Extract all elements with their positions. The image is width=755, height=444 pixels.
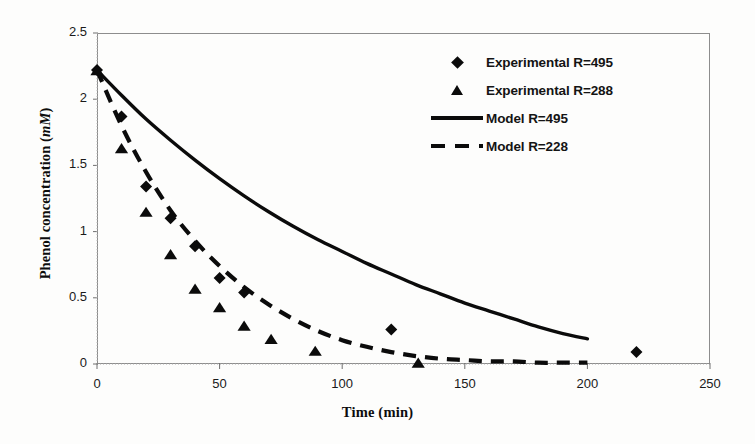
data-point-triangle — [213, 302, 226, 312]
data-point-diamond — [385, 324, 397, 336]
data-point-triangle — [309, 346, 322, 356]
data-point-triangle — [412, 358, 425, 368]
data-point-triangle — [188, 283, 201, 293]
data-point-triangle — [139, 207, 152, 217]
data-point-triangle — [264, 334, 277, 344]
data-point-triangle — [164, 249, 177, 259]
data-point-diamond — [140, 181, 152, 193]
data-point-diamond — [630, 346, 642, 358]
legend-key-solid-line — [428, 116, 486, 120]
data-point-diamond — [214, 272, 226, 284]
chart-page: 00.511.522.5 050100150200250 Time (min) … — [0, 0, 755, 444]
dashed-line-icon — [431, 144, 483, 148]
x-tick-label: 100 — [317, 376, 367, 391]
triangle-marker-icon — [451, 85, 463, 95]
x-tick-label: 250 — [685, 376, 735, 391]
legend-item: Experimental R=495 — [428, 48, 673, 76]
legend-key-dashed-line — [428, 144, 486, 148]
legend-key-diamond-marker — [428, 58, 486, 67]
legend-label: Model R=495 — [486, 111, 568, 126]
legend-label: Model R=228 — [486, 139, 568, 154]
x-tick-label: 150 — [440, 376, 490, 391]
legend-label: Experimental R=495 — [486, 55, 613, 70]
legend-item: Model R=495 — [428, 104, 673, 132]
x-tick-label: 0 — [72, 376, 122, 391]
data-point-triangle — [115, 143, 128, 153]
x-tick-label: 50 — [195, 376, 245, 391]
diamond-marker-icon — [451, 56, 464, 69]
legend-label: Experimental R=288 — [486, 83, 613, 98]
legend-item: Experimental R=288 — [428, 76, 673, 104]
x-tick-label: 200 — [562, 376, 612, 391]
data-point-diamond — [189, 240, 201, 252]
legend-item: Model R=228 — [428, 132, 673, 160]
y-tick-label: 2.5 — [47, 24, 87, 39]
solid-line-icon — [431, 116, 483, 120]
legend-key-triangle-marker — [428, 85, 486, 95]
chart-legend: Experimental R=495Experimental R=288Mode… — [428, 48, 673, 160]
y-axis-unit: mM — [37, 113, 53, 137]
x-axis-title: Time (min) — [0, 404, 755, 421]
y-tick-label: 0 — [47, 355, 87, 370]
y-axis-title: Phenol concentration (mM) — [37, 74, 54, 314]
data-point-triangle — [238, 321, 251, 331]
